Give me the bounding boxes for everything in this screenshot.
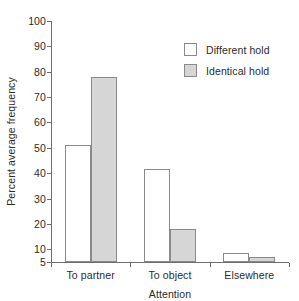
y-axis-tick-label: 5 xyxy=(16,257,46,268)
y-axis-tick-label: 20 xyxy=(16,219,46,230)
chart-legend: Different hold Identical hold xyxy=(184,41,270,83)
y-axis-line xyxy=(51,21,52,262)
x-axis-label-elsewhere: Elsewhere xyxy=(210,269,289,281)
legend-item-different-hold: Different hold xyxy=(184,41,270,58)
legend-label-identical-hold: Identical hold xyxy=(206,65,269,77)
bar-to-partner-different-hold xyxy=(65,145,91,262)
y-axis-tick xyxy=(47,72,52,73)
y-axis-tick-label: 80 xyxy=(16,67,46,78)
bar-elsewhere-different-hold xyxy=(223,253,249,262)
y-axis-tick-label: 40 xyxy=(16,168,46,179)
x-axis-label-to-object: To object xyxy=(130,269,209,281)
legend-item-identical-hold: Identical hold xyxy=(184,62,270,79)
x-axis-label-to-partner: To partner xyxy=(51,269,130,281)
y-axis-tick-label: 90 xyxy=(16,41,46,52)
y-axis-tick xyxy=(47,46,52,47)
bar-elsewhere-identical-hold xyxy=(249,257,275,262)
legend-swatch-different-hold xyxy=(184,43,197,56)
y-axis-tick xyxy=(47,224,52,225)
y-axis-tick xyxy=(47,199,52,200)
bar-to-partner-identical-hold xyxy=(91,77,117,262)
y-axis-tick xyxy=(47,173,52,174)
y-axis-tick-label: 70 xyxy=(16,92,46,103)
x-axis-tick xyxy=(130,263,131,267)
y-axis-tick xyxy=(47,97,52,98)
y-axis-tick xyxy=(47,122,52,123)
y-axis-tick-label: 50 xyxy=(16,143,46,154)
y-axis-tick xyxy=(47,21,52,22)
legend-swatch-identical-hold xyxy=(184,64,197,77)
bar-to-object-identical-hold xyxy=(170,229,196,262)
y-axis-tick-label: 30 xyxy=(16,194,46,205)
x-axis-title: Attention xyxy=(51,288,289,300)
x-axis-tick xyxy=(210,263,211,267)
y-axis-tick-label: 10 xyxy=(16,244,46,255)
bar-chart: Percent average frequency 51020304050607… xyxy=(0,0,299,301)
y-axis-tick xyxy=(47,249,52,250)
legend-label-different-hold: Different hold xyxy=(206,44,270,56)
x-axis-tick xyxy=(51,263,52,267)
x-axis-tick xyxy=(289,263,290,267)
bar-to-object-different-hold xyxy=(144,169,170,262)
y-axis-tick-label: 100 xyxy=(16,16,46,27)
x-axis-line xyxy=(51,262,289,263)
y-axis-tick xyxy=(47,148,52,149)
y-axis-tick-label: 60 xyxy=(16,117,46,128)
